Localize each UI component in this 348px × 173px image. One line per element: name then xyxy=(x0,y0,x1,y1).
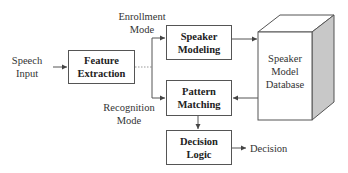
pattern-matching-block: Pattern Matching xyxy=(166,80,232,116)
database-label: Speaker Model Database xyxy=(258,52,312,91)
speech-input-label: Speech Input xyxy=(4,54,50,80)
speaker-modeling-block: Speaker Modeling xyxy=(166,25,232,60)
enrollment-mode-label: Enrollment Mode xyxy=(112,10,172,36)
feature-extraction-block: Feature Extraction xyxy=(68,50,135,84)
recognition-mode-label: Recognition Mode xyxy=(96,101,162,127)
decision-output-label: Decision xyxy=(250,142,310,155)
decision-logic-block: Decision Logic xyxy=(166,130,232,165)
